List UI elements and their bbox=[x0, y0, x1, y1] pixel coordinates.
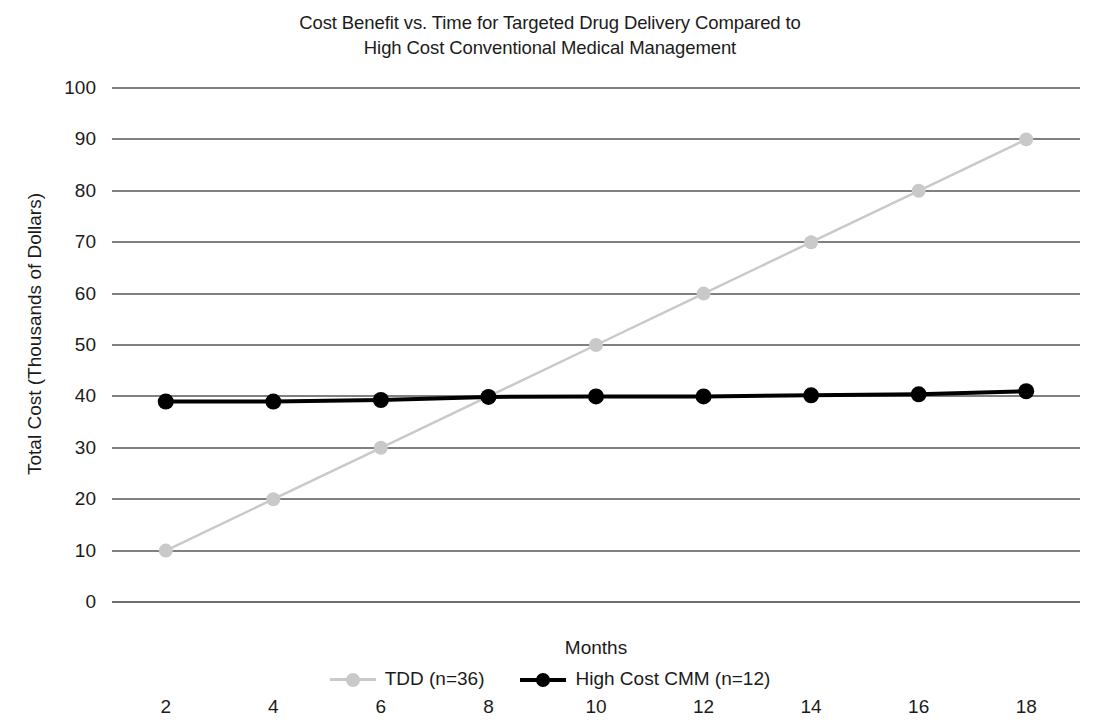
x-tick-label: 4 bbox=[243, 696, 303, 718]
legend-dot bbox=[346, 673, 360, 687]
y-tick-label: 20 bbox=[8, 488, 96, 510]
legend-label: TDD (n=36) bbox=[385, 668, 485, 690]
x-tick-label: 16 bbox=[889, 696, 949, 718]
plot-area: 0102030405060708090100 24681012141618 bbox=[112, 88, 1080, 602]
legend-label: High Cost CMM (n=12) bbox=[575, 668, 770, 690]
data-point bbox=[696, 388, 712, 404]
series-layer bbox=[112, 88, 1080, 602]
y-tick-label: 80 bbox=[8, 180, 96, 202]
data-point bbox=[374, 441, 388, 455]
data-point bbox=[158, 394, 174, 410]
y-tick-label: 30 bbox=[8, 437, 96, 459]
x-tick-label: 18 bbox=[996, 696, 1056, 718]
chart-figure: Cost Benefit vs. Time for Targeted Drug … bbox=[0, 0, 1100, 724]
data-point bbox=[1019, 132, 1033, 146]
y-tick-label: 60 bbox=[8, 283, 96, 305]
data-point bbox=[697, 287, 711, 301]
y-tick-label: 70 bbox=[8, 231, 96, 253]
data-point bbox=[911, 386, 927, 402]
x-tick-label: 8 bbox=[458, 696, 518, 718]
y-tick-label: 90 bbox=[8, 128, 96, 150]
x-axis-title: Months bbox=[112, 637, 1080, 659]
x-tick-label: 10 bbox=[566, 696, 626, 718]
data-point bbox=[1018, 383, 1034, 399]
x-tick-label: 14 bbox=[781, 696, 841, 718]
series-1 bbox=[159, 132, 1033, 557]
legend-marker-icon bbox=[330, 671, 376, 687]
data-point bbox=[373, 392, 389, 408]
data-point bbox=[912, 184, 926, 198]
data-point bbox=[588, 388, 604, 404]
data-point bbox=[804, 235, 818, 249]
chart-title: Cost Benefit vs. Time for Targeted Drug … bbox=[0, 10, 1100, 60]
legend-marker-icon bbox=[520, 671, 566, 687]
chart-legend: TDD (n=36)High Cost CMM (n=12) bbox=[0, 668, 1100, 690]
y-tick-label: 100 bbox=[8, 77, 96, 99]
series-2 bbox=[158, 383, 1034, 409]
x-tick-label: 2 bbox=[136, 696, 196, 718]
x-tick-label: 12 bbox=[674, 696, 734, 718]
legend-item[interactable]: TDD (n=36) bbox=[330, 668, 485, 690]
y-tick-label: 10 bbox=[8, 540, 96, 562]
legend-dot bbox=[536, 673, 550, 687]
legend-item[interactable]: High Cost CMM (n=12) bbox=[520, 668, 770, 690]
y-tick-label: 50 bbox=[8, 334, 96, 356]
x-tick-label: 6 bbox=[351, 696, 411, 718]
y-tick-label: 40 bbox=[8, 385, 96, 407]
data-point bbox=[266, 492, 280, 506]
data-point bbox=[159, 544, 173, 558]
data-point bbox=[589, 338, 603, 352]
data-point bbox=[265, 394, 281, 410]
data-point bbox=[803, 387, 819, 403]
y-tick-label: 0 bbox=[8, 591, 96, 613]
data-point bbox=[480, 389, 496, 405]
